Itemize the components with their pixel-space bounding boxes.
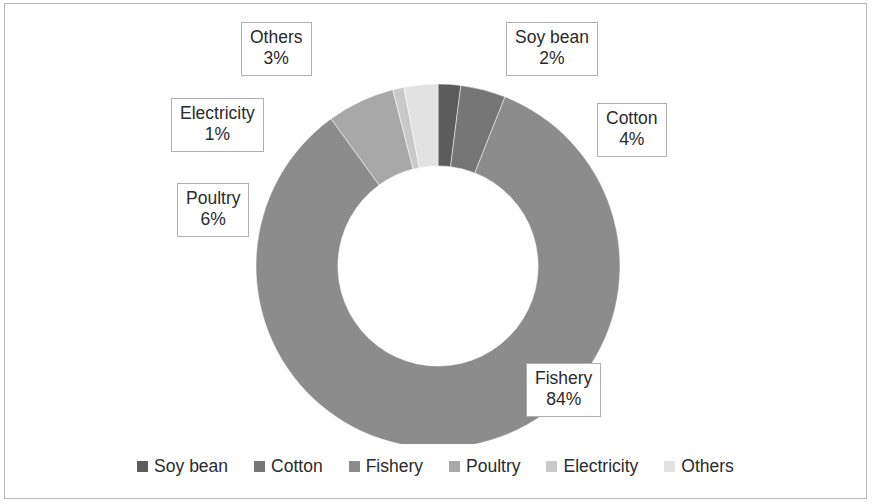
legend-swatch-icon <box>137 461 148 472</box>
data-label-category: Soy bean <box>515 27 589 48</box>
legend-swatch-icon <box>664 461 675 472</box>
legend-swatch-icon <box>546 461 557 472</box>
legend-item-label: Poultry <box>466 456 520 477</box>
legend-swatch-icon <box>254 461 265 472</box>
legend-item-electricity[interactable]: Electricity <box>546 456 638 477</box>
legend-item-label: Cotton <box>271 456 323 477</box>
data-label-category: Cotton <box>606 108 658 129</box>
data-label-category: Electricity <box>180 103 255 124</box>
data-label-others: Others 3% <box>241 22 312 76</box>
legend-swatch-icon <box>449 461 460 472</box>
legend-item-cotton[interactable]: Cotton <box>254 456 323 477</box>
legend-item-soy-bean[interactable]: Soy bean <box>137 456 228 477</box>
legend-item-others[interactable]: Others <box>664 456 734 477</box>
data-label-percent: 4% <box>606 129 658 150</box>
chart-frame: Soy bean 2% Cotton 4% Fishery 84% Poultr… <box>4 3 867 499</box>
data-label-fishery: Fishery 84% <box>526 363 601 417</box>
data-label-percent: 2% <box>515 48 589 69</box>
data-label-poultry: Poultry 6% <box>177 183 249 237</box>
data-label-percent: 3% <box>250 48 303 69</box>
data-label-percent: 84% <box>535 389 592 410</box>
data-label-soy-bean: Soy bean 2% <box>506 22 598 76</box>
legend-item-label: Others <box>681 456 734 477</box>
legend-item-poultry[interactable]: Poultry <box>449 456 520 477</box>
doughnut-chart-svg <box>5 4 866 444</box>
data-label-percent: 6% <box>186 209 240 230</box>
data-label-electricity: Electricity 1% <box>171 98 264 152</box>
legend-item-label: Fishery <box>366 456 423 477</box>
data-label-percent: 1% <box>180 124 255 145</box>
data-label-category: Others <box>250 27 303 48</box>
data-label-category: Fishery <box>535 368 592 389</box>
legend-item-label: Soy bean <box>154 456 228 477</box>
legend-swatch-icon <box>349 461 360 472</box>
data-label-category: Poultry <box>186 188 240 209</box>
data-label-cotton: Cotton 4% <box>597 103 667 157</box>
chart-legend: Soy beanCottonFisheryPoultryElectricityO… <box>5 456 866 477</box>
legend-item-label: Electricity <box>563 456 638 477</box>
legend-item-fishery[interactable]: Fishery <box>349 456 423 477</box>
doughnut-chart-plot-area <box>5 4 866 444</box>
